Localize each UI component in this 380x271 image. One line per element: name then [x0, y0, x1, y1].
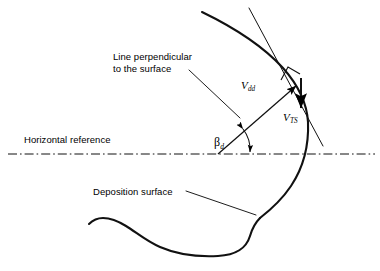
v-dd-symbol-base: V	[241, 79, 248, 91]
perpendicular-label-leader-line	[189, 70, 240, 118]
deposition-surface-diagram: Line perpendicularto the surface Horizon…	[0, 0, 380, 271]
perpendicular-line-label-row1: Line perpendicular	[113, 51, 192, 62]
deposition-surface-label-leader-line	[186, 191, 256, 215]
v-ts-symbol-base: V	[283, 111, 290, 123]
tangent-line	[249, 8, 323, 146]
perpendicular-line-label: Line perpendicularto the surface	[113, 51, 192, 74]
v-dd-symbol-subscript: dd	[248, 85, 255, 93]
deposition-surface-label: Deposition surface	[93, 186, 173, 198]
beta-d-symbol-label: βd	[214, 135, 224, 150]
v-ts-symbol-label: VTS	[283, 111, 297, 123]
deposition-surface-lower-curve	[89, 218, 260, 256]
v-ts-symbol-subscript: TS	[290, 117, 298, 125]
beta-d-angle-arc	[243, 129, 250, 152]
perpendicular-line-label-row2: to the surface	[113, 63, 171, 74]
beta-d-symbol-subscript: d	[220, 142, 224, 151]
v-dd-symbol-label: Vdd	[241, 79, 255, 91]
horizontal-reference-label: Horizontal reference	[24, 134, 111, 146]
